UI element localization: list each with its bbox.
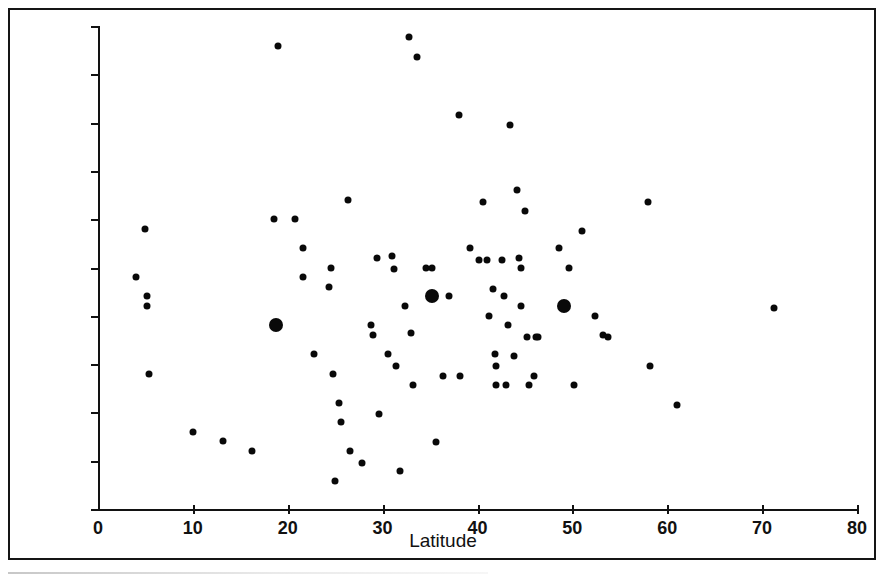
scatter-point xyxy=(504,322,511,329)
scatter-point xyxy=(345,196,352,203)
scatter-point xyxy=(142,225,149,232)
scatter-point xyxy=(347,448,354,455)
scatter-point xyxy=(220,438,227,445)
scatter-point xyxy=(144,303,151,310)
scatter-point xyxy=(673,401,680,408)
scatter-point xyxy=(556,245,563,252)
x-tick-50 xyxy=(572,505,574,514)
scatter-point xyxy=(516,254,523,261)
scatter-point xyxy=(389,252,396,259)
scatter-point xyxy=(392,363,399,370)
y-tick-25 xyxy=(91,268,99,270)
scatter-point xyxy=(326,283,333,290)
scatter-point xyxy=(440,372,447,379)
scatter-point xyxy=(292,216,299,223)
scatter-point xyxy=(189,428,196,435)
scatter-point xyxy=(645,198,652,205)
scatter-point xyxy=(510,353,517,360)
scatter-point xyxy=(493,382,500,389)
y-tick-30 xyxy=(91,219,99,221)
scatter-point xyxy=(335,399,342,406)
scatter-point xyxy=(506,122,513,129)
scatter-point xyxy=(299,245,306,252)
scatter-point xyxy=(499,256,506,263)
scatter-point xyxy=(457,372,464,379)
scatter-point xyxy=(146,370,153,377)
scatter-point xyxy=(770,305,777,312)
scatter-point xyxy=(413,53,420,60)
x-tick-30 xyxy=(383,505,385,514)
scatter-point xyxy=(647,363,654,370)
scatter-point xyxy=(328,264,335,271)
scatter-point xyxy=(483,256,490,263)
scatter-point xyxy=(337,419,344,426)
scatter-point xyxy=(518,303,525,310)
scatter-point xyxy=(408,330,415,337)
scatter-point xyxy=(523,334,530,341)
scatter-point xyxy=(271,216,278,223)
scatter-point xyxy=(409,382,416,389)
scatter-point xyxy=(370,332,377,339)
scatter-point xyxy=(518,264,525,271)
scatter-point-large xyxy=(425,289,439,303)
scatter-point xyxy=(493,363,500,370)
scatter-point xyxy=(501,293,508,300)
scatter-point xyxy=(571,382,578,389)
scatter-point xyxy=(248,448,255,455)
scatter-point xyxy=(391,266,398,273)
y-tick-40 xyxy=(91,123,99,125)
x-tick-label-30: 30 xyxy=(373,518,393,539)
scatter-point xyxy=(402,303,409,310)
scatter-point xyxy=(428,264,435,271)
scatter-point xyxy=(432,439,439,446)
scatter-point xyxy=(455,111,462,118)
scatter-point xyxy=(480,198,487,205)
scatter-point xyxy=(406,33,413,40)
scatter-point xyxy=(592,312,599,319)
y-tick-35 xyxy=(91,171,99,173)
scatter-point xyxy=(466,245,473,252)
scatter-point-large xyxy=(557,299,571,313)
x-tick-label-40: 40 xyxy=(467,518,487,539)
y-tick-45 xyxy=(91,74,99,76)
scatter-point xyxy=(144,293,151,300)
scatter-point xyxy=(514,187,521,194)
scatter-point xyxy=(535,334,542,341)
scatter-point xyxy=(368,322,375,329)
x-tick-60 xyxy=(667,505,669,514)
x-tick-10 xyxy=(193,505,195,514)
y-tick-5 xyxy=(91,461,99,463)
scatter-point xyxy=(485,312,492,319)
scatter-point xyxy=(605,334,612,341)
scatter-point xyxy=(332,477,339,484)
scatter-point xyxy=(275,43,282,50)
scatter-point xyxy=(373,254,380,261)
scatter-point xyxy=(385,351,392,358)
y-tick-20 xyxy=(91,316,99,318)
x-tick-80 xyxy=(857,505,859,514)
scatter-point xyxy=(330,370,337,377)
x-tick-40 xyxy=(478,505,480,514)
x-tick-label-10: 10 xyxy=(183,518,203,539)
x-tick-label-60: 60 xyxy=(657,518,677,539)
figure-root: Penicillia as percent of total species L… xyxy=(0,0,886,579)
scatter-point xyxy=(311,351,318,358)
y-tick-15 xyxy=(91,364,99,366)
x-tick-label-80: 80 xyxy=(847,518,867,539)
scatter-point xyxy=(446,293,453,300)
scatter-point xyxy=(375,411,382,418)
scatter-point xyxy=(521,208,528,215)
x-tick-70 xyxy=(762,505,764,514)
scatter-point xyxy=(578,227,585,234)
x-tick-label-0: 0 xyxy=(93,518,103,539)
y-tick-10 xyxy=(91,412,99,414)
scatter-point xyxy=(502,382,509,389)
scatter-point xyxy=(476,256,483,263)
scatter-point xyxy=(491,351,498,358)
scatter-point xyxy=(396,468,403,475)
x-tick-label-20: 20 xyxy=(278,518,298,539)
scatter-point xyxy=(525,382,532,389)
scatter-point xyxy=(565,264,572,271)
plot-area: 05101520253035404550 01020304050607080 xyxy=(98,26,857,510)
scatter-point xyxy=(132,274,139,281)
